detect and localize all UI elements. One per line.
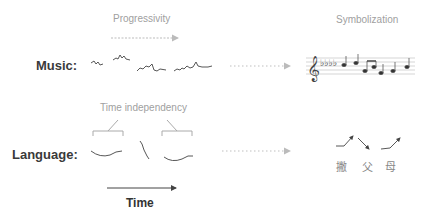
tone-arrow-fall — [358, 138, 369, 149]
flat-signs-icon: ♭♭♭♭ — [320, 58, 337, 68]
diagram-canvas: 𝄞 ♭♭♭♭ — [0, 0, 423, 218]
language-tone-contour — [91, 141, 193, 161]
treble-clef-icon: 𝄞 — [307, 56, 320, 82]
tone-arrows — [336, 136, 400, 149]
time-independency-brackets — [93, 120, 192, 136]
music-notes — [342, 54, 409, 75]
music-pitch-contour — [91, 55, 212, 71]
tone-arrow-rise-2 — [381, 138, 400, 149]
tone-arrow-rise-1 — [336, 136, 353, 146]
